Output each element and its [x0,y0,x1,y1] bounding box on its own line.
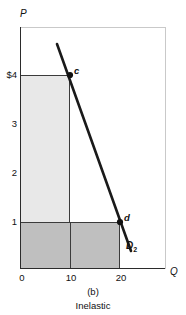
y-axis-label: P [20,8,27,19]
y-tick-label-2: 2 [0,168,17,178]
quantity-10-divider [70,222,71,268]
point-d-label: d [124,212,130,223]
x-axis-label: Q [170,266,178,277]
x-tick-label-20: 20 [113,273,129,283]
point-c-label: c [74,65,79,76]
y-tick-label-4: $4 [0,70,17,80]
demand-curve-label: D2 [126,240,137,253]
x-tick-label-0: 0 [17,273,27,283]
plot-area [20,27,166,269]
demand-curve-label-subscript: 2 [133,246,137,253]
x-axis-line [20,268,165,269]
x-tick-label-10: 10 [63,273,79,283]
panel-label: (b) [0,286,186,297]
inelastic-demand-figure: P Q $4 3 2 1 0 10 20 c d D2 (b) Inelasti… [0,0,186,315]
y-axis-line [20,27,21,268]
light-revenue-rectangle [20,75,70,222]
y-tick-label-3: 3 [0,119,17,129]
y-tick-label-1: 1 [0,217,17,227]
figure-title: Inelastic [0,300,186,311]
